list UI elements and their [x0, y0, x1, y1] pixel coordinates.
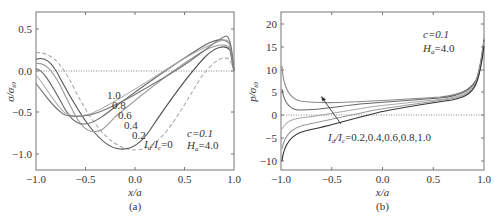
- curve-a-0.8: [36, 40, 234, 116]
- chart-b-ytick: −5: [265, 132, 277, 144]
- chart-b-ticks: [281, 12, 484, 170]
- chart-a-xtick: 0.0: [128, 173, 142, 185]
- chart-a-ytick: −0.5: [12, 106, 32, 118]
- chart-a-ytick: 0.0: [18, 65, 32, 77]
- chart-a-xtick: −1.0: [26, 173, 46, 185]
- curve-a-0.6: [36, 40, 234, 124]
- chart-b-xtick: 1.0: [477, 173, 491, 185]
- chart-b-caption: (b): [376, 200, 389, 213]
- chart-a-ylabel: σ/σt0: [4, 82, 18, 102]
- chart-b-xtick: −1.0: [271, 173, 291, 185]
- chart-b-ytick: −10: [260, 155, 278, 167]
- chart-a-xtick: −0.5: [76, 173, 96, 185]
- figure: 0.5 0.0 −0.5 −1.0 −1.0 −0.5 0.0 0.5 1.0 …: [0, 0, 494, 216]
- chart-b-ytick: 5: [272, 86, 278, 98]
- chart-b: 20 15 10 5 0 −5 −10 −1.0 −0.5 0.0 0.5 1.…: [246, 12, 491, 213]
- chart-a-ytick: 0.5: [18, 23, 32, 35]
- chart-b-ytick: 10: [266, 64, 278, 76]
- chart-a-xtick: 0.5: [178, 173, 192, 185]
- chart-b-ytick: 15: [266, 41, 278, 53]
- curve-b-0.6: [282, 42, 484, 129]
- curve-b-0.2: [282, 46, 484, 161]
- chart-a: 0.5 0.0 −0.5 −1.0 −1.0 −0.5 0.0 0.5 1.0 …: [4, 12, 241, 213]
- chart-a-param-h: Ha=4.0: [186, 139, 219, 153]
- chart-a-param-c: c=0.1: [187, 127, 213, 139]
- chart-a-caption: (a): [129, 200, 142, 213]
- chart-a-xlabel: x/a: [127, 186, 142, 198]
- chart-a-ytick: −1.0: [12, 148, 32, 160]
- svg-text:σ/σt0: σ/σt0: [4, 82, 18, 102]
- chart-a-xtick: 1.0: [227, 173, 241, 185]
- chart-b-param-h: Ha=4.0: [422, 42, 455, 56]
- chart-b-frame: [281, 12, 484, 170]
- chart-b-xtick: 0.0: [376, 173, 390, 185]
- chart-b-ytick: 0: [272, 109, 278, 121]
- chart-b-curve-label: Id/Ic=0.2,0.4,0.6,0.8,1.0: [327, 131, 431, 145]
- svg-text:p/σt0: p/σt0: [246, 82, 260, 103]
- chart-b-xtick: −0.5: [322, 173, 342, 185]
- chart-b-ylabel: p/σt0: [246, 82, 260, 103]
- chart-b-xlabel: x/a: [375, 186, 390, 198]
- chart-b-xtick: 0.5: [426, 173, 440, 185]
- chart-b-ytick: 20: [266, 18, 278, 30]
- chart-b-param-c: c=0.1: [423, 28, 449, 40]
